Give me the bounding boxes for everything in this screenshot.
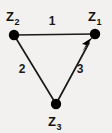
graph-canvas: Z2 Z1 Z3 1 2 3 <box>0 0 112 133</box>
triangle-graph-diagram: Z2 Z1 Z3 1 2 3 <box>0 0 112 133</box>
edge-label-1: 1 <box>49 14 56 28</box>
node-label-z2-base: Z <box>6 9 14 24</box>
node-label-z1-base: Z <box>88 9 96 24</box>
node-label-z3: Z3 <box>48 114 61 132</box>
node-label-z1-subscript: 1 <box>96 17 101 27</box>
node-label-z3-subscript: 3 <box>56 122 61 132</box>
node-dot-z1 <box>90 29 100 39</box>
node-label-z1: Z1 <box>88 9 101 27</box>
node-label-z2: Z2 <box>6 9 19 27</box>
node-label-z2-subscript: 2 <box>14 17 19 27</box>
arrowhead-icon <box>82 37 93 52</box>
node-label-z3-base: Z <box>48 114 56 129</box>
edge-line-3 <box>56 43 89 104</box>
edge-label-2: 2 <box>19 62 26 76</box>
edge-label-3: 3 <box>77 62 84 76</box>
node-dot-z3 <box>51 99 61 109</box>
edge-line-1 <box>14 34 95 35</box>
node-dot-z2 <box>9 30 19 40</box>
